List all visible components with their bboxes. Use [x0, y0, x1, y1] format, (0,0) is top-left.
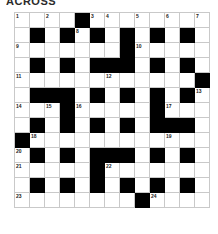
- grid-cell[interactable]: 8: [75, 28, 90, 43]
- grid-cell[interactable]: [90, 193, 105, 208]
- grid-cell[interactable]: 6: [165, 13, 180, 28]
- grid-cell[interactable]: [15, 88, 30, 103]
- grid-cell[interactable]: [135, 103, 150, 118]
- grid-cell[interactable]: 4: [105, 13, 120, 28]
- grid-cell[interactable]: [75, 58, 90, 73]
- grid-cell[interactable]: [75, 193, 90, 208]
- grid-cell[interactable]: [120, 13, 135, 28]
- grid-cell[interactable]: [135, 148, 150, 163]
- grid-cell[interactable]: 15: [45, 103, 60, 118]
- grid-cell[interactable]: 3: [90, 13, 105, 28]
- grid-cell[interactable]: 24: [150, 193, 165, 208]
- grid-cell[interactable]: 23: [15, 193, 30, 208]
- grid-cell[interactable]: [75, 133, 90, 148]
- grid-cell[interactable]: 17: [165, 103, 180, 118]
- grid-cell[interactable]: [105, 88, 120, 103]
- grid-cell[interactable]: [45, 118, 60, 133]
- grid-cell[interactable]: [120, 133, 135, 148]
- grid-cell[interactable]: [120, 163, 135, 178]
- grid-cell[interactable]: [15, 118, 30, 133]
- grid-cell[interactable]: [135, 133, 150, 148]
- grid-cell[interactable]: 7: [195, 13, 210, 28]
- grid-cell[interactable]: [45, 28, 60, 43]
- grid-cell[interactable]: [195, 133, 210, 148]
- grid-cell[interactable]: [165, 148, 180, 163]
- grid-cell[interactable]: [150, 43, 165, 58]
- grid-cell[interactable]: [45, 73, 60, 88]
- grid-cell[interactable]: [180, 43, 195, 58]
- grid-cell[interactable]: [180, 13, 195, 28]
- grid-cell[interactable]: [45, 58, 60, 73]
- grid-cell[interactable]: 14: [15, 103, 30, 118]
- grid-cell[interactable]: [165, 88, 180, 103]
- grid-cell[interactable]: 1: [15, 13, 30, 28]
- grid-cell[interactable]: [45, 43, 60, 58]
- grid-cell[interactable]: 20: [15, 148, 30, 163]
- grid-cell[interactable]: [195, 58, 210, 73]
- grid-cell[interactable]: [105, 178, 120, 193]
- grid-cell[interactable]: 16: [75, 103, 90, 118]
- grid-cell[interactable]: [75, 163, 90, 178]
- grid-cell[interactable]: [105, 193, 120, 208]
- grid-cell[interactable]: [165, 193, 180, 208]
- grid-cell[interactable]: 9: [15, 43, 30, 58]
- grid-cell[interactable]: [75, 118, 90, 133]
- grid-cell[interactable]: [165, 58, 180, 73]
- grid-cell[interactable]: [105, 103, 120, 118]
- grid-cell[interactable]: 12: [105, 73, 120, 88]
- grid-cell[interactable]: [135, 118, 150, 133]
- grid-cell[interactable]: [30, 103, 45, 118]
- grid-cell[interactable]: [45, 148, 60, 163]
- grid-cell[interactable]: [30, 73, 45, 88]
- grid-cell[interactable]: [195, 148, 210, 163]
- grid-cell[interactable]: [195, 163, 210, 178]
- grid-cell[interactable]: 10: [135, 43, 150, 58]
- grid-cell[interactable]: 19: [165, 133, 180, 148]
- grid-cell[interactable]: [60, 193, 75, 208]
- grid-cell[interactable]: [120, 193, 135, 208]
- grid-cell[interactable]: [150, 13, 165, 28]
- grid-cell[interactable]: [60, 13, 75, 28]
- grid-cell[interactable]: [15, 28, 30, 43]
- grid-cell[interactable]: [150, 73, 165, 88]
- grid-cell[interactable]: [90, 43, 105, 58]
- grid-cell[interactable]: [135, 178, 150, 193]
- grid-cell[interactable]: [30, 193, 45, 208]
- grid-cell[interactable]: [75, 43, 90, 58]
- grid-cell[interactable]: [180, 103, 195, 118]
- grid-cell[interactable]: 22: [105, 163, 120, 178]
- grid-cell[interactable]: [165, 28, 180, 43]
- grid-cell[interactable]: [105, 43, 120, 58]
- grid-cell[interactable]: [165, 73, 180, 88]
- grid-cell[interactable]: [75, 178, 90, 193]
- grid-cell[interactable]: [30, 43, 45, 58]
- grid-cell[interactable]: [45, 193, 60, 208]
- grid-cell[interactable]: [90, 73, 105, 88]
- grid-cell[interactable]: [45, 178, 60, 193]
- grid-cell[interactable]: [120, 103, 135, 118]
- grid-cell[interactable]: 5: [135, 13, 150, 28]
- grid-cell[interactable]: [105, 28, 120, 43]
- grid-cell[interactable]: [60, 133, 75, 148]
- grid-cell[interactable]: [45, 163, 60, 178]
- grid-cell[interactable]: [195, 193, 210, 208]
- grid-cell[interactable]: [30, 163, 45, 178]
- grid-cell[interactable]: [180, 193, 195, 208]
- grid-cell[interactable]: [90, 133, 105, 148]
- crossword-grid[interactable]: 123456789101112131415161718192021222324: [14, 12, 210, 208]
- grid-cell[interactable]: [15, 58, 30, 73]
- grid-cell[interactable]: [60, 73, 75, 88]
- grid-cell[interactable]: [75, 148, 90, 163]
- grid-cell[interactable]: [195, 178, 210, 193]
- grid-cell[interactable]: [75, 88, 90, 103]
- grid-cell[interactable]: [30, 13, 45, 28]
- grid-cell[interactable]: [180, 73, 195, 88]
- grid-cell[interactable]: [90, 103, 105, 118]
- grid-cell[interactable]: [135, 88, 150, 103]
- grid-cell[interactable]: 13: [195, 88, 210, 103]
- grid-cell[interactable]: [45, 133, 60, 148]
- grid-cell[interactable]: [195, 43, 210, 58]
- grid-cell[interactable]: [165, 178, 180, 193]
- grid-cell[interactable]: [150, 163, 165, 178]
- grid-cell[interactable]: [120, 73, 135, 88]
